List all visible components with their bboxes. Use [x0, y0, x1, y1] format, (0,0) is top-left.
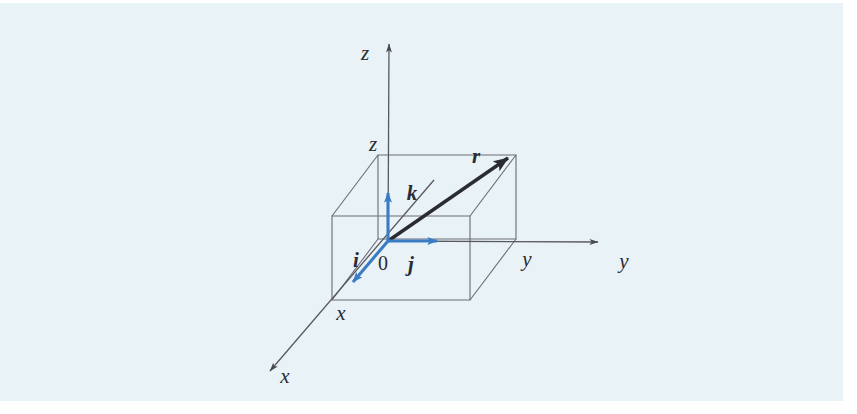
- origin-label: 0: [378, 252, 388, 274]
- i-vector-label: i: [353, 248, 359, 272]
- y-point-label: y: [520, 247, 532, 271]
- x-point-label: x: [335, 301, 346, 325]
- x-axis-label: x: [279, 364, 290, 388]
- k-vector-label: k: [407, 181, 418, 205]
- r-vector-label: r: [472, 144, 481, 168]
- box-depth-edges: [332, 155, 516, 300]
- z-point-label: z: [368, 132, 377, 156]
- z-axis-label: z: [360, 41, 369, 65]
- figure-page: z z y y x x 0 i j k r: [0, 0, 857, 414]
- y-axis-label: y: [617, 249, 629, 273]
- j-vector-label: j: [405, 252, 414, 276]
- coordinate-system-diagram: z z y y x x 0 i j k r: [0, 0, 857, 414]
